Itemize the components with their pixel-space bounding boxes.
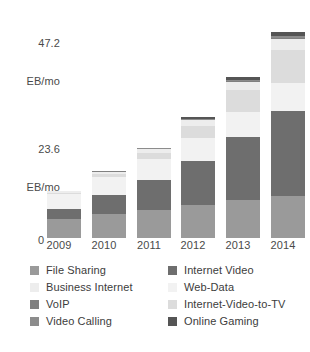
bar-segment xyxy=(47,194,81,210)
legend-item: Business Internet xyxy=(30,279,168,296)
bar-segment xyxy=(47,209,81,218)
x-axis-tick-2009: 2009 xyxy=(37,239,81,251)
legend-label: Internet-Video-to-TV xyxy=(184,299,285,310)
legend-item: Video Calling xyxy=(30,313,168,330)
bar-2009 xyxy=(47,191,81,238)
bar-segment xyxy=(181,161,215,205)
bar-segment xyxy=(271,196,305,238)
bar-2013 xyxy=(226,77,260,238)
chart-legend: File SharingBusiness InternetVoIPVideo C… xyxy=(30,262,305,330)
stacked-bar-chart: 47.2 EB/mo 23.6 EB/mo 0 2009201020112012… xyxy=(0,0,310,352)
legend-label: Online Gaming xyxy=(184,316,259,327)
bar-segment xyxy=(181,205,215,238)
legend-item: File Sharing xyxy=(30,262,168,279)
legend-swatch-icon xyxy=(30,317,39,326)
x-axis-tick-2013: 2013 xyxy=(216,239,260,251)
bar-segment xyxy=(92,214,126,238)
legend-swatch-icon xyxy=(168,266,177,275)
legend-swatch-icon xyxy=(30,283,39,292)
legend-item: Internet Video xyxy=(168,262,305,279)
legend-label: Video Calling xyxy=(46,316,112,327)
legend-label: Internet Video xyxy=(184,265,254,276)
bar-2010 xyxy=(92,171,126,238)
bar-2012 xyxy=(181,117,215,238)
bar-segment xyxy=(226,112,260,137)
legend-item: Online Gaming xyxy=(168,313,305,330)
bar-segment xyxy=(47,219,81,238)
bar-segment xyxy=(92,195,126,214)
legend-item: VoIP xyxy=(30,296,168,313)
legend-swatch-icon xyxy=(168,317,177,326)
x-axis: 200920102011201220132014 xyxy=(47,239,305,255)
bar-segment xyxy=(181,126,215,138)
bar-segment xyxy=(226,200,260,238)
legend-column: File SharingBusiness InternetVoIPVideo C… xyxy=(30,262,168,330)
bar-segment xyxy=(226,137,260,200)
legend-swatch-icon xyxy=(30,300,39,309)
bar-segment xyxy=(271,111,305,196)
x-axis-tick-2010: 2010 xyxy=(82,239,126,251)
bar-segment xyxy=(181,138,215,161)
bar-segment xyxy=(271,39,305,50)
bar-segment xyxy=(271,83,305,111)
x-axis-tick-2014: 2014 xyxy=(261,239,305,251)
legend-label: File Sharing xyxy=(46,265,106,276)
bar-segment xyxy=(137,153,171,160)
bar-segment xyxy=(226,82,260,90)
bar-segment xyxy=(226,90,260,112)
plot-area xyxy=(47,14,305,238)
legend-item: Internet-Video-to-TV xyxy=(168,296,305,313)
bar-segment xyxy=(137,180,171,210)
legend-swatch-icon xyxy=(168,300,177,309)
legend-label: VoIP xyxy=(46,299,70,310)
bar-segment xyxy=(137,159,171,179)
legend-label: Web-Data xyxy=(184,282,234,293)
x-axis-tick-2011: 2011 xyxy=(127,239,171,251)
legend-column: Internet VideoWeb-DataInternet-Video-to-… xyxy=(168,262,305,330)
bar-segment xyxy=(271,50,305,83)
bar-2014 xyxy=(271,32,305,238)
x-axis-tick-2012: 2012 xyxy=(171,239,215,251)
bar-segment xyxy=(92,177,126,195)
legend-item: Web-Data xyxy=(168,279,305,296)
legend-swatch-icon xyxy=(30,266,39,275)
legend-swatch-icon xyxy=(168,283,177,292)
legend-label: Business Internet xyxy=(46,282,133,293)
bar-segment xyxy=(137,210,171,238)
bar-2011 xyxy=(137,148,171,239)
